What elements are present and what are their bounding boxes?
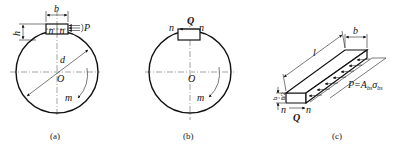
length-label: l: [313, 47, 316, 58]
shear-plane-label-right: n: [60, 25, 65, 36]
moment-label: m: [65, 92, 72, 103]
shear-plane-label-right: n: [199, 22, 204, 33]
half-height-label: h/2: [280, 92, 286, 100]
figure-a: n n b h P d O m (a): [10, 3, 100, 141]
key-rectangle: [178, 29, 200, 40]
center-label: O: [57, 73, 64, 84]
shear-plane-label-left: n: [49, 25, 54, 36]
height-label: h: [272, 97, 278, 100]
diameter-label: d: [60, 54, 66, 65]
bearing-force-label: P=Absσbs: [347, 79, 383, 91]
center-label: O: [188, 73, 195, 84]
shear-force-label: Q: [293, 112, 300, 123]
moment-arrow: [209, 67, 220, 97]
force-brace: [81, 24, 83, 32]
caption-a: (a): [50, 131, 60, 141]
shear-plane-label-left: n: [281, 104, 286, 115]
key-front-face: [286, 93, 306, 103]
width-label: b: [353, 25, 358, 36]
bearing-sigma-subscript: bs: [377, 85, 383, 91]
extension-line: [342, 31, 345, 48]
shear-plane-label-left: n: [169, 22, 174, 33]
moment-label: m: [197, 92, 204, 103]
shear-plane-label-right: n: [306, 104, 311, 115]
height-label: h: [11, 31, 22, 36]
key-shear-diagram: n n b h P d O m (a) Q n n O: [0, 0, 403, 150]
caption-c: (c): [332, 131, 342, 141]
figure-c: l b h h/2 n n Q P=Absσbs (c): [272, 25, 386, 141]
figure-b: Q n n O m (b): [145, 15, 234, 141]
shear-force-label: Q: [187, 15, 194, 26]
width-label: b: [54, 3, 59, 14]
caption-b: (b): [183, 131, 194, 141]
force-label: P: [83, 22, 90, 33]
moment-arrow: [78, 68, 88, 98]
bearing-force-text: P=A: [347, 79, 368, 90]
